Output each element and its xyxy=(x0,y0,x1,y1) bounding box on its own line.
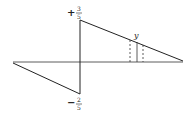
top-sign-label: + xyxy=(67,7,75,18)
sawtooth-diagram: + 3 5 − 2 5 y xyxy=(0,0,188,113)
wave-segment-right xyxy=(80,20,183,61)
top-denominator: 5 xyxy=(77,13,81,20)
bottom-numerator: 2 xyxy=(77,96,81,103)
y-marker-label: y xyxy=(133,31,139,40)
bottom-denominator: 5 xyxy=(77,104,81,111)
wave-segment-left xyxy=(13,63,80,94)
bottom-sign-label: − xyxy=(67,97,75,108)
top-numerator: 3 xyxy=(77,5,81,12)
